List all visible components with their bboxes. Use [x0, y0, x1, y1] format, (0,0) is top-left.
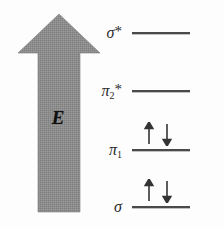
level-label-base: σ: [107, 24, 115, 41]
level-line: [132, 32, 190, 34]
level-label-base: π: [101, 82, 109, 99]
electron-pair-pi-1: [140, 122, 182, 146]
mo-energy-diagram: E σ* π2* π1 ↑↓: [0, 0, 224, 229]
level-label-pi-1: π1: [109, 141, 122, 160]
level-label-sigma-star: σ*: [107, 24, 122, 43]
level-label-base: σ: [114, 198, 122, 215]
level-line: [132, 149, 190, 151]
level-label-star: *: [115, 23, 123, 39]
level-label-sigma: σ: [114, 198, 122, 217]
energy-axis-label: E: [38, 108, 78, 127]
level-label-subscript: 1: [117, 149, 122, 160]
level-label-star: *: [115, 81, 123, 97]
level-line: [132, 90, 190, 92]
level-line: [132, 206, 190, 208]
electron-pair-sigma: [140, 179, 182, 203]
level-label-pi-2-star: π2*: [101, 82, 122, 101]
spin-up-down-arrows-icon: [140, 179, 182, 203]
level-label-base: π: [109, 141, 117, 158]
spin-up-down-arrows-icon: [140, 122, 182, 146]
